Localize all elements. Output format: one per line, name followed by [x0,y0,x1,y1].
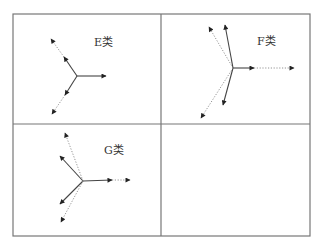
arrow-g-0 [83,180,112,181]
arrow-g-5 [61,181,83,222]
panel-label-f: F类 [257,32,276,48]
arrow-g-4 [60,181,83,204]
arrow-f-2 [225,25,233,68]
arrow-e-4 [52,95,65,114]
arrow-e-2 [51,39,64,57]
panel-label-g: G类 [104,141,124,157]
arrow-g-2 [60,156,83,181]
arrow-f-4 [223,68,233,105]
panel-label-e: E类 [94,33,113,49]
arrow-e-1 [64,57,77,76]
arrow-e-3 [65,76,77,95]
arrow-g-3 [65,133,83,181]
arrow-f-5 [201,68,233,118]
